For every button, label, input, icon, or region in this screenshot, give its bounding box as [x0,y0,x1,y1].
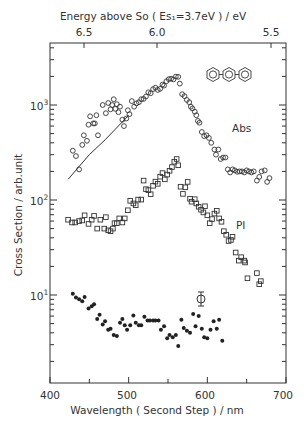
data-point [98,313,102,317]
data-point [262,168,267,173]
data-point [81,133,86,138]
x2-tick-label: 6.0 [149,26,166,38]
y-tick-label: 102 [30,193,48,207]
data-point [71,292,75,296]
chart: Energy above So ( Es₁=3.7eV ) / eV 6.5 6… [0,0,304,430]
terphenyl-structure-icon [207,68,251,82]
x-tick-label: 600 [195,389,215,401]
x-tick-label: 400 [40,389,60,401]
y-tick-label: 103 [30,98,48,112]
data-point [115,334,119,338]
data-point [194,324,198,328]
data-point [259,279,264,284]
data-point [77,167,82,172]
data-point [94,113,99,118]
data-point [179,318,183,322]
data-point [118,104,123,109]
data-point [100,103,105,108]
data-point [95,317,99,321]
data-point [131,313,135,317]
data-point [174,333,178,337]
data-point [86,122,91,127]
y-ticks [50,48,286,362]
data-point [129,99,134,104]
data-point [142,315,146,319]
data-point [205,336,209,340]
top-axis-title: Energy above So ( Es₁=3.7eV ) / eV [60,10,247,22]
data-point [220,339,224,343]
data-point [208,328,212,332]
data-point [82,213,87,218]
data-point [178,184,183,189]
data-point [162,324,166,328]
data-point [200,327,204,331]
x2-ticks [84,43,271,48]
data-point [183,185,188,190]
data-point [197,314,201,318]
y-axis-title: Cross Section / arb.unit [12,154,24,276]
data-point [136,197,141,202]
x2-tick-label: 6.5 [76,26,93,38]
data-point [245,276,250,281]
data-point [157,318,161,322]
pi-label: PI [236,219,245,231]
abs-label: Abs [232,122,251,134]
data-point [118,321,122,325]
data-point [217,318,221,322]
data-series [66,74,272,348]
data-point [80,143,85,148]
data-point [122,124,127,129]
error-bar-icon [197,292,205,306]
data-point [74,154,79,159]
data-point [214,152,219,157]
data-point [103,111,108,116]
data-point [114,102,119,107]
data-point [116,110,121,115]
y-tick-label: 101 [30,288,48,302]
data-point [139,197,144,202]
data-point [159,328,163,332]
data-point [134,321,138,325]
data-point [163,177,168,182]
data-point [233,250,238,255]
data-point [182,326,186,330]
data-point [141,178,146,183]
x-tick-label: 500 [117,389,137,401]
data-point [92,302,96,306]
data-point [212,319,216,323]
data-point [139,323,143,327]
x-axis-title: Wavelength ( Second Step ) / nm [70,404,243,416]
data-point [85,138,90,143]
data-point [257,175,262,180]
data-point [103,319,107,323]
data-point [165,336,169,340]
data-point [255,271,260,276]
abs-fit-line [68,115,129,179]
data-point [257,282,262,287]
data-point [209,140,214,145]
data-point [188,196,193,201]
data-point [95,226,100,231]
data-point [191,312,195,316]
data-point [80,299,84,303]
data-point [181,192,186,197]
data-point [259,169,264,174]
data-point [109,327,113,331]
data-point [70,148,75,153]
data-point [125,328,129,332]
x-tick-label: 700 [273,389,293,401]
data-point [123,323,127,327]
data-point [132,104,137,109]
data-point [185,180,190,185]
data-point [126,208,131,213]
data-point [177,81,182,86]
data-point [96,133,101,138]
data-point [128,323,132,327]
data-point [83,295,87,299]
data-point [104,215,109,220]
data-point [88,114,93,119]
data-point [120,317,124,321]
data-point [215,327,219,331]
data-point [111,97,116,102]
data-point [188,331,192,335]
